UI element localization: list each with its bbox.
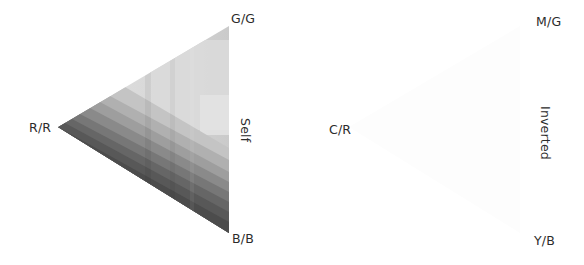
panel-title-self: Self [238,118,251,142]
vertex-label-yb: Y/B [534,235,555,248]
vertex-label-mg: M/G [536,16,561,29]
panel-title-inverted: Inverted [538,106,551,160]
inverted-triangle [0,0,584,265]
color-triangle-figure: G/G R/R B/B Self M/G C/R Y/B Inverted [0,0,584,265]
vertex-label-rr: R/R [29,122,51,135]
vertex-label-gg: G/G [231,13,255,26]
inverted-fill [349,26,520,233]
vertex-label-cr: C/R [329,124,351,137]
vertex-label-bb: B/B [232,233,254,246]
